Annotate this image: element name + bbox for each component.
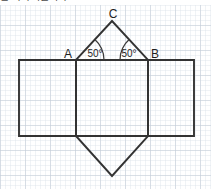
vertex-label-b: B [151,47,159,61]
diagram-canvas: 은 사다리꼴이다. A B C [0,0,211,189]
vertex-label-c: C [109,7,118,21]
vertex-label-a: A [64,47,72,61]
geometry-figure: A B C 50° 50° [0,0,211,189]
angle-label-at-a: 50° [87,48,102,59]
angle-label-at-b: 50° [121,48,136,59]
graph-paper-grid [0,5,211,189]
